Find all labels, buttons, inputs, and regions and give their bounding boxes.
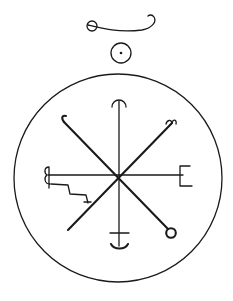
crook-hook-icon — [62, 116, 66, 122]
seal-drawing — [0, 0, 233, 301]
circled-dot-icon — [111, 43, 131, 63]
vertical-axis — [110, 100, 129, 249]
small-circle-icon — [166, 228, 176, 238]
seal-figure: Seal — [0, 0, 233, 301]
zigzag-step-line — [51, 184, 91, 203]
top-hook-glyph-icon — [87, 15, 155, 31]
curled-hook-icon — [45, 167, 50, 188]
e-terminal-icon — [180, 166, 192, 186]
